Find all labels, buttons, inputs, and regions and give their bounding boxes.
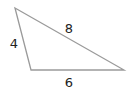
side-label-left: 4 — [10, 36, 18, 51]
triangle-diagram: 4 8 6 — [0, 0, 131, 92]
side-label-top: 8 — [65, 21, 73, 36]
triangle-shape — [15, 8, 124, 70]
side-label-bottom: 6 — [65, 75, 73, 90]
